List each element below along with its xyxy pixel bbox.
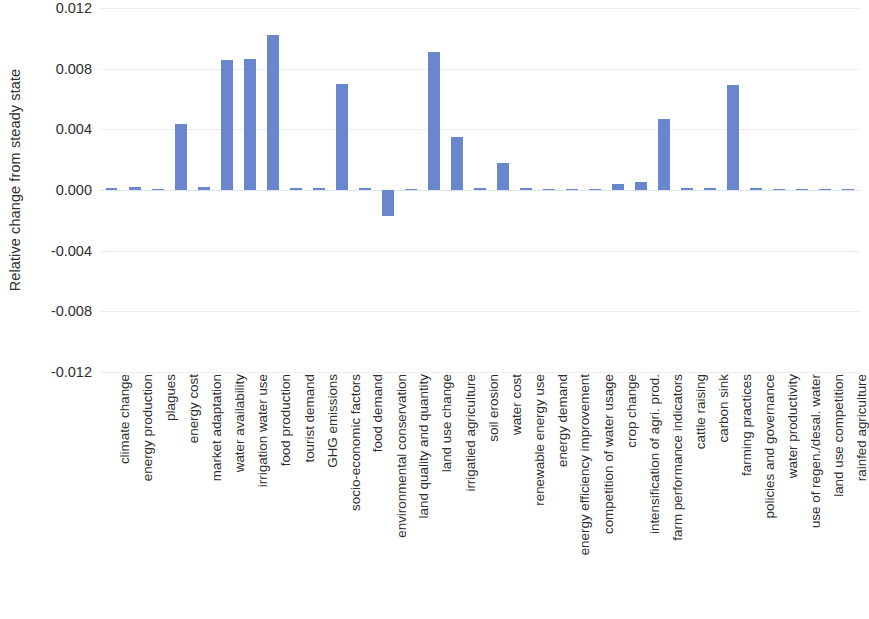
- bar[interactable]: [106, 188, 118, 190]
- bar[interactable]: [267, 35, 279, 190]
- x-tick-label: crop change: [607, 374, 630, 614]
- y-tick-label: -0.004: [51, 244, 92, 259]
- bar[interactable]: [658, 119, 670, 190]
- bar[interactable]: [244, 59, 256, 190]
- y-tick-label: 0.000: [56, 183, 92, 198]
- bar[interactable]: [152, 189, 164, 191]
- gridline: [100, 372, 860, 373]
- x-tick-label: market adaptation: [192, 374, 215, 614]
- bar[interactable]: [796, 189, 808, 191]
- x-tick-label: policies and governance: [745, 374, 768, 614]
- y-tick-label: 0.012: [56, 1, 92, 16]
- x-tick-label: farming practices: [722, 374, 745, 614]
- bar[interactable]: [727, 85, 739, 190]
- bar[interactable]: [221, 60, 233, 190]
- x-tick-label: water productivity: [768, 374, 791, 614]
- x-tick-label: climate change: [100, 374, 123, 614]
- bar[interactable]: [129, 187, 141, 190]
- bar[interactable]: [520, 188, 532, 190]
- x-axis-category-labels: climate changeenergy productionplaguesen…: [100, 374, 860, 619]
- x-tick-label: socio-economic factors: [330, 374, 353, 614]
- x-tick-label: cattle raising: [676, 374, 699, 614]
- x-tick-label: GHG emissions: [307, 374, 330, 614]
- bar[interactable]: [612, 184, 624, 190]
- y-tick-label: 0.008: [56, 62, 92, 77]
- x-tick-label: land use competition: [814, 374, 837, 614]
- bar[interactable]: [566, 189, 578, 191]
- y-tick-label: -0.012: [51, 365, 92, 380]
- bar[interactable]: [681, 188, 693, 190]
- x-tick-label: rainfed agriculture: [837, 374, 860, 614]
- bar[interactable]: [382, 190, 394, 216]
- plot-area: [100, 8, 860, 372]
- bars-layer: [100, 8, 860, 372]
- bar[interactable]: [336, 84, 348, 190]
- x-tick-label: tourist demand: [284, 374, 307, 614]
- x-tick-label: irrigation water use: [238, 374, 261, 614]
- y-axis-tick-labels: 0.0120.0080.0040.000-0.004-0.008-0.012: [30, 0, 96, 375]
- x-tick-label: use of regen./desal. water: [791, 374, 814, 614]
- x-tick-label: farm performance indicators: [653, 374, 676, 614]
- x-tick-label: environmental conservation: [376, 374, 399, 614]
- x-tick-label: competition of water usage: [584, 374, 607, 614]
- x-tick-label: land use change: [422, 374, 445, 614]
- x-tick-label: energy efficiency improvement: [561, 374, 584, 614]
- y-tick-label: 0.004: [56, 122, 92, 137]
- x-tick-label: food demand: [353, 374, 376, 614]
- bar[interactable]: [474, 188, 486, 190]
- x-tick-label: water cost: [492, 374, 515, 614]
- x-tick-label: land quality and quantity: [399, 374, 422, 614]
- bar[interactable]: [635, 182, 647, 190]
- bar[interactable]: [451, 137, 463, 190]
- bar[interactable]: [589, 189, 601, 191]
- bar[interactable]: [290, 188, 302, 190]
- x-tick-label: irrigatied agriculture: [445, 374, 468, 614]
- x-tick-label: intensification of agri. prod.: [630, 374, 653, 614]
- bar[interactable]: [750, 188, 762, 190]
- x-tick-label: plagues: [146, 374, 169, 614]
- bar[interactable]: [497, 163, 509, 190]
- y-axis-title: Relative change from steady state: [0, 0, 30, 360]
- x-tick-label: renewable energy use: [515, 374, 538, 614]
- bar[interactable]: [175, 124, 187, 190]
- x-tick-label: water availability: [215, 374, 238, 614]
- x-tick-label: energy demand: [538, 374, 561, 614]
- y-tick-label: -0.008: [51, 304, 92, 319]
- bar[interactable]: [819, 189, 831, 191]
- x-tick-label: carbon sink: [699, 374, 722, 614]
- y-axis-title-text: Relative change from steady state: [7, 69, 23, 292]
- bar[interactable]: [405, 189, 417, 191]
- bar[interactable]: [313, 188, 325, 190]
- bar[interactable]: [428, 52, 440, 190]
- x-tick-label: energy production: [123, 374, 146, 614]
- bar[interactable]: [842, 189, 854, 191]
- x-tick-label-text: rainfed agriculture: [855, 374, 868, 481]
- bar[interactable]: [704, 188, 716, 190]
- bar[interactable]: [359, 188, 371, 190]
- x-tick-label: food production: [261, 374, 284, 614]
- x-tick-label: energy cost: [169, 374, 192, 614]
- bar[interactable]: [198, 187, 210, 190]
- bar[interactable]: [543, 189, 555, 191]
- x-tick-label: soil erosion: [468, 374, 491, 614]
- bar[interactable]: [773, 189, 785, 191]
